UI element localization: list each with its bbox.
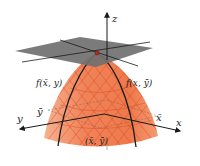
max-point: [95, 51, 99, 55]
trace-label-x-fixed: f(x̄, y): [35, 78, 63, 88]
point-label: (x̄, ȳ): [85, 136, 108, 146]
x-bar-label: x̄: [156, 112, 162, 123]
z-axis-label: z: [111, 13, 118, 24]
y-bar-label: ȳ: [36, 106, 43, 117]
y-axis-label: y: [16, 113, 23, 124]
tangent-plane: [15, 37, 153, 67]
paraboloid-diagram: z y x f(x̄, y) f(x, ȳ) ȳ x̄ (x̄, ȳ): [0, 0, 200, 166]
trace-label-y-fixed: f(x, ȳ): [125, 78, 153, 88]
x-axis-label: x: [176, 117, 182, 128]
